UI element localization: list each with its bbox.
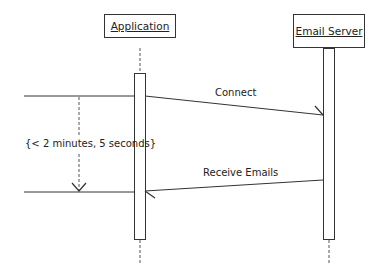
connect-message-line[interactable] xyxy=(145,96,323,115)
participant-application-label: Application xyxy=(111,20,170,32)
participant-application[interactable]: Application xyxy=(104,14,176,38)
receive-emails-message-line[interactable] xyxy=(145,180,323,191)
connect-arrowhead-icon xyxy=(315,106,323,115)
receive-emails-message-label: Receive Emails xyxy=(203,167,278,178)
application-activation-bar[interactable] xyxy=(135,74,146,240)
email-server-activation-bar[interactable] xyxy=(324,49,335,240)
participant-email-server-label: Email Server xyxy=(296,25,363,37)
duration-constraint-label: {< 2 minutes, 5 seconds} xyxy=(25,138,156,149)
participant-email-server[interactable]: Email Server xyxy=(293,14,365,48)
receive-emails-arrowhead-icon xyxy=(145,191,155,198)
connect-message-label: Connect xyxy=(215,87,256,98)
